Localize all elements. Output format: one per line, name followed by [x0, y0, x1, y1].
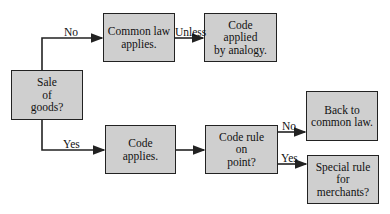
common-law-applies-node: Common law applies. — [103, 13, 175, 62]
common-law-applies-text: Common law applies. — [108, 25, 170, 50]
back-to-common-law-text: Back to common law. — [311, 104, 373, 129]
rule-yes-label: Yes — [281, 152, 298, 164]
special-rule-for-merchants-node: Special rule for merchants? — [307, 155, 379, 204]
back-to-common-law-node: Back to common law. — [306, 91, 378, 141]
sale-yes-label: Yes — [63, 138, 80, 150]
code-rule-on-point-node: Code rule on point? — [205, 125, 278, 174]
unless-label: Unless — [175, 26, 206, 38]
sale-no-label: No — [64, 26, 78, 38]
sale-of-goods-node: Sale of goods? — [11, 70, 83, 120]
code-applied-by-analogy-node: Code applied by analogy. — [204, 13, 277, 62]
code-rule-on-point-text: Code rule on point? — [219, 131, 264, 169]
code-applies-node: Code applies. — [105, 125, 176, 174]
sale-of-goods-text: Sale of goods? — [31, 76, 64, 114]
code-applied-by-analogy-text: Code applied by analogy. — [214, 19, 267, 57]
code-applies-text: Code applies. — [123, 137, 158, 162]
special-rule-for-merchants-text: Special rule for merchants? — [316, 161, 371, 199]
rule-no-label: No — [282, 120, 296, 132]
